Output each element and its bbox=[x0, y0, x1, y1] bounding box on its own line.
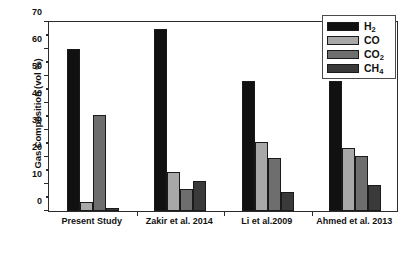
bar-h2-2 bbox=[242, 81, 255, 211]
x-tick bbox=[137, 211, 138, 216]
bar-h2-0 bbox=[67, 49, 80, 211]
y-tick-minor bbox=[46, 142, 49, 143]
bar-co-2 bbox=[255, 142, 268, 211]
x-tick bbox=[224, 211, 225, 216]
legend-item-co2: CO2 bbox=[327, 47, 391, 61]
y-tick-minor bbox=[46, 88, 49, 89]
y-tick-minor bbox=[46, 196, 49, 197]
y-tick-major bbox=[44, 183, 49, 184]
y-tick-label: 0 bbox=[37, 196, 42, 206]
y-tick-major bbox=[44, 21, 49, 22]
y-tick-major bbox=[44, 129, 49, 130]
bar-co-0 bbox=[80, 202, 93, 211]
legend-swatch-co2 bbox=[327, 50, 359, 59]
bar-group bbox=[242, 22, 294, 211]
y-tick-minor bbox=[46, 169, 49, 170]
y-tick-label: 70 bbox=[32, 7, 42, 17]
y-tick-major bbox=[44, 156, 49, 157]
legend-swatch-h2 bbox=[327, 22, 359, 31]
y-tick-minor bbox=[46, 34, 49, 35]
bar-ch4-2 bbox=[281, 192, 294, 211]
bar-ch4-3 bbox=[368, 185, 381, 211]
legend-item-ch4: CH4 bbox=[327, 61, 391, 75]
legend-item-co: CO bbox=[327, 33, 391, 47]
y-tick-label: 30 bbox=[32, 115, 42, 125]
legend-label-co2: CO2 bbox=[364, 49, 384, 60]
y-tick-label: 10 bbox=[32, 169, 42, 179]
legend-label-h2: H2 bbox=[364, 21, 376, 32]
x-category-label: Zakir et al. 2014 bbox=[146, 216, 213, 226]
legend-label-co: CO bbox=[364, 35, 380, 46]
y-tick-major bbox=[44, 102, 49, 103]
gas-composition-bar-chart: Gas Composition (vol %) 010203040506070 … bbox=[0, 0, 410, 254]
y-tick-major bbox=[44, 48, 49, 49]
legend-item-h2: H2 bbox=[327, 19, 391, 33]
x-category-label: Ahmed et al. 2013 bbox=[316, 216, 392, 226]
bar-h2-1 bbox=[154, 29, 167, 211]
bar-ch4-1 bbox=[193, 181, 206, 211]
y-tick-major bbox=[44, 210, 49, 211]
legend-swatch-co bbox=[327, 36, 359, 45]
bar-co-3 bbox=[342, 148, 355, 211]
y-tick-major bbox=[44, 75, 49, 76]
bar-co2-3 bbox=[355, 156, 368, 211]
legend-swatch-ch4 bbox=[327, 64, 359, 73]
bar-co2-0 bbox=[93, 115, 106, 211]
bar-h2-3 bbox=[329, 81, 342, 211]
y-tick-label: 40 bbox=[32, 88, 42, 98]
legend-label-ch4: CH4 bbox=[364, 63, 383, 74]
bar-co2-2 bbox=[268, 158, 281, 211]
x-category-label: Li et al.2009 bbox=[241, 216, 292, 226]
bar-ch4-0 bbox=[106, 208, 119, 211]
chart-legend: H2COCO2CH4 bbox=[322, 15, 396, 79]
y-tick-label: 60 bbox=[32, 34, 42, 44]
bar-co-1 bbox=[167, 172, 180, 211]
bar-co2-1 bbox=[180, 189, 193, 211]
y-tick-label: 50 bbox=[32, 61, 42, 71]
bar-group bbox=[67, 22, 119, 211]
y-tick-minor bbox=[46, 115, 49, 116]
x-category-label: Present Study bbox=[61, 216, 122, 226]
x-tick bbox=[312, 211, 313, 216]
y-tick-label: 20 bbox=[32, 142, 42, 152]
bar-group bbox=[154, 22, 206, 211]
y-tick-minor bbox=[46, 61, 49, 62]
